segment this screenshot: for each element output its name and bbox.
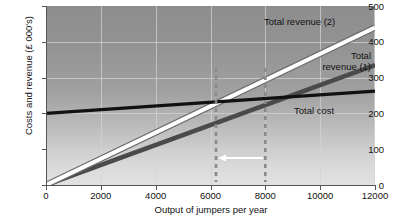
x-axis-title: Output of jumpers per year [46,204,376,215]
series-label-total-revenue-1-line2: revenue (1) [308,61,371,72]
y-tick-label: 400 [344,37,384,46]
y-axis [46,6,47,186]
x-tick-label: 12000 [350,190,393,201]
x-tick-label: 10000 [295,190,345,201]
y-tick-label: 300 [344,73,384,82]
y-tick-label: 100 [344,145,384,154]
series-layer [46,6,375,185]
x-tick-label: 4000 [131,190,181,201]
y-tick-label: 0 [344,181,384,190]
series-label-total-revenue-1: Total revenue (1) [308,50,371,72]
x-tick-label: 6000 [186,190,236,201]
y-tick [42,149,46,150]
x-tick-label: 0 [21,190,71,201]
y-tick-label: 500 [344,2,384,11]
series-label-total-revenue-2: Total revenue (2) [264,16,335,27]
y-tick [42,113,46,114]
y-tick [42,6,46,7]
y-tick [42,78,46,79]
y-axis-title: Costs and revenue (£ 000's) [23,1,34,151]
y-tick-label: 200 [344,109,384,118]
series-line-total-revenue-1 [46,65,375,185]
x-tick-label: 2000 [76,190,126,201]
y-tick [42,42,46,43]
plot-area: Total revenue (2) Total revenue (1) Tota… [46,6,375,185]
series-label-total-revenue-1-line1: Total [308,50,371,61]
x-tick-label: 8000 [240,190,290,201]
series-label-total-cost: Total cost [294,105,334,116]
breakeven-shift-arrow-head [218,154,226,161]
